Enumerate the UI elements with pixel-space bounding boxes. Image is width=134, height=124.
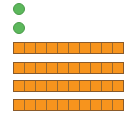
unit-cube [69,100,80,110]
tens-rod [13,80,124,92]
unit-cube [80,43,91,53]
unit-cube [113,100,123,110]
unit-cube [36,63,47,73]
unit-cube [14,100,25,110]
unit-cube [58,43,69,53]
unit-cube [91,100,102,110]
unit-cube [58,81,69,91]
tens-rod [13,62,124,74]
unit-cube [91,43,102,53]
tens-rod [13,42,124,54]
tens-rod [13,99,124,111]
unit-cube [113,43,123,53]
unit-cube [69,43,80,53]
unit-cube [102,100,113,110]
unit-cube [80,63,91,73]
unit-cube [69,81,80,91]
unit-cube [36,100,47,110]
unit-cube [47,81,58,91]
unit-cube [25,81,36,91]
unit-cube [102,63,113,73]
unit-cube [113,63,123,73]
unit-cube [47,63,58,73]
unit-cube [113,81,123,91]
unit-cube [58,63,69,73]
unit-cube [58,100,69,110]
unit-cube [91,81,102,91]
unit-cube [36,43,47,53]
unit-cube [91,63,102,73]
unit-cube [102,81,113,91]
unit-cube [25,63,36,73]
ones-block-icon [13,3,25,15]
unit-cube [47,100,58,110]
unit-cube [14,81,25,91]
unit-cube [14,63,25,73]
unit-cube [80,81,91,91]
ones-block-icon [13,22,25,34]
unit-cube [25,100,36,110]
unit-cube [47,43,58,53]
unit-cube [102,43,113,53]
unit-cube [25,43,36,53]
unit-cube [36,81,47,91]
unit-cube [69,63,80,73]
unit-cube [80,100,91,110]
unit-cube [14,43,25,53]
